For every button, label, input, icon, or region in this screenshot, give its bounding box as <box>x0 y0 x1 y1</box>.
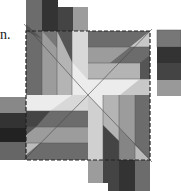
quadrant-top-right <box>88 29 152 95</box>
quadrant-top-left <box>24 24 88 95</box>
left-strip <box>0 97 26 160</box>
quilt-figure <box>0 0 181 191</box>
top-strip <box>26 0 88 31</box>
quadrant-bottom-right <box>88 95 152 162</box>
right-strip <box>157 30 181 96</box>
quadrant-bottom-left <box>24 95 88 160</box>
bottom-strip-gap <box>88 183 108 191</box>
